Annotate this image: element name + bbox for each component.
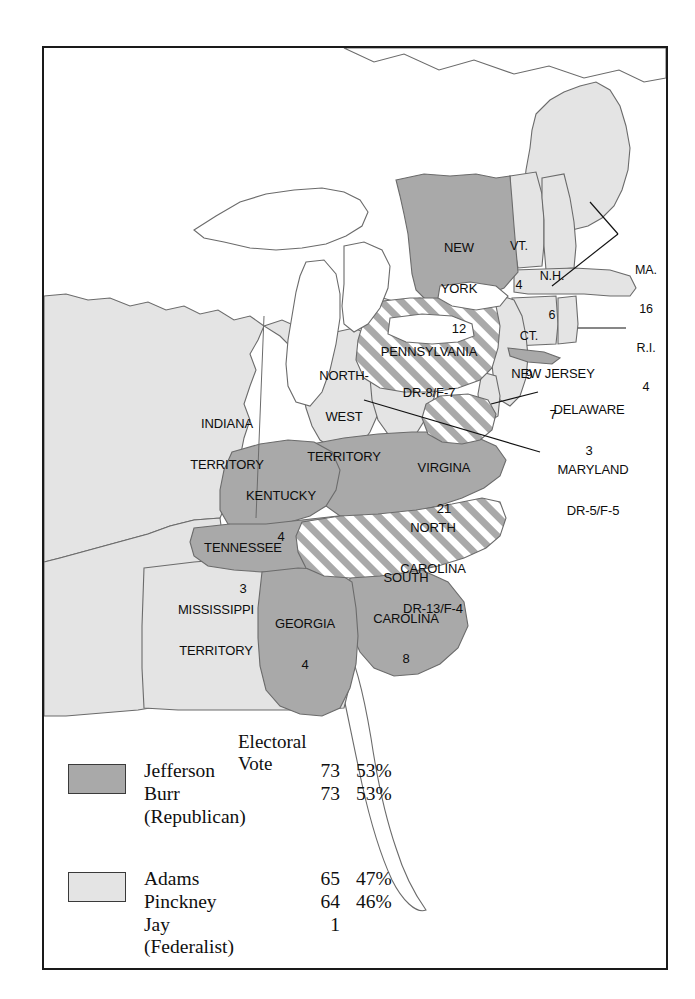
map-page: VT. 4 N.H. 6 MA. 16 R.I. 4 CT. 9 NEW bbox=[0, 0, 695, 999]
legend-names-federalist: Adams Pinckney Jay (Federalist) bbox=[144, 868, 234, 959]
legend-pcts-federalist: 47% 46% bbox=[356, 868, 426, 914]
legend-pcts-republican: 53% 53% bbox=[356, 760, 426, 806]
legend-swatch-republican bbox=[68, 764, 126, 794]
legend-names-republican: Jefferson Burr (Republican) bbox=[144, 760, 246, 828]
legend-heading: Electoral Vote bbox=[238, 731, 307, 775]
legend-swatch-federalist bbox=[68, 872, 126, 902]
map-canvas: VT. 4 N.H. 6 MA. 16 R.I. 4 CT. 9 NEW bbox=[44, 48, 666, 968]
us-map-svg bbox=[44, 48, 666, 968]
legend-votes-republican: 73 73 bbox=[298, 760, 340, 806]
legend-votes-federalist: 65 64 1 bbox=[298, 868, 340, 936]
map-frame: VT. 4 N.H. 6 MA. 16 R.I. 4 CT. 9 NEW bbox=[42, 46, 668, 970]
